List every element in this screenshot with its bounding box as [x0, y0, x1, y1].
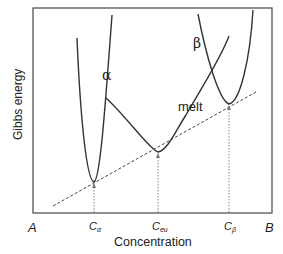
- common-tangent-line: [53, 92, 256, 206]
- y-axis-label: Gibbs energy: [11, 69, 25, 140]
- alpha-label: α: [102, 67, 112, 83]
- melt-label: melt: [178, 99, 203, 114]
- component-b-label: B: [265, 220, 274, 235]
- tick-c-eu: Ceu: [152, 220, 168, 233]
- beta-label: β: [193, 35, 201, 51]
- beta-curve: [198, 10, 253, 104]
- tick-c-beta: Cβ: [224, 220, 236, 234]
- x-axis-label: Concentration: [114, 235, 192, 249]
- arrowhead-icon: [156, 153, 160, 158]
- tick-c-alpha: Cα: [89, 220, 102, 233]
- gibbs-energy-diagram: α melt β Gibbs energy Cα Ceu Cβ A B Conc…: [0, 0, 283, 254]
- plot-frame: [33, 8, 272, 213]
- component-a-label: A: [27, 220, 37, 235]
- melt-curve: [106, 98, 186, 152]
